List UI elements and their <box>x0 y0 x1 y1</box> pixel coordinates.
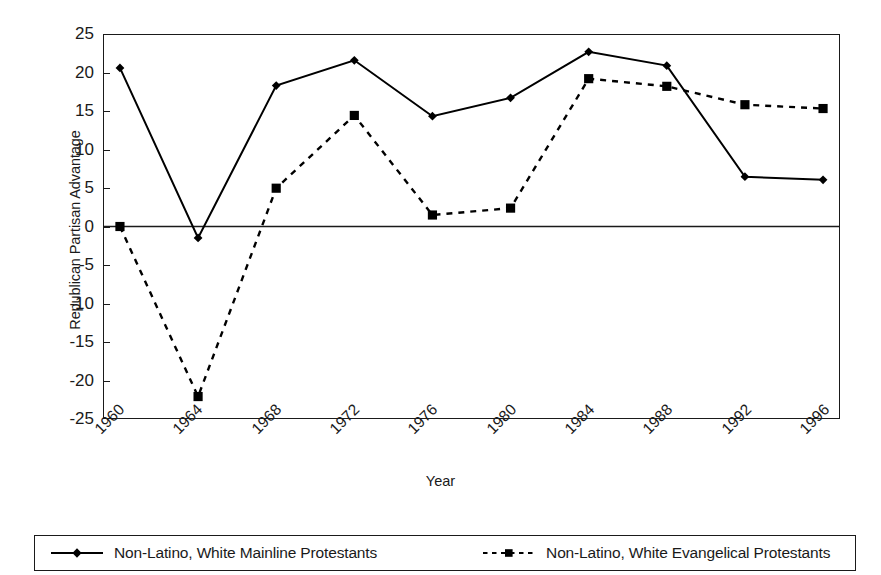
y-axis-tick-mark <box>103 73 110 74</box>
y-axis-tick-label: 10 <box>48 141 94 158</box>
y-axis-tick-label: 5 <box>48 179 94 196</box>
chart-figure: Republican Partisan Advantage 2520151050… <box>0 0 881 575</box>
diamond-marker-icon <box>819 175 828 184</box>
y-axis-tick-label: 20 <box>48 64 94 81</box>
y-axis-tick-mark <box>103 150 110 151</box>
y-axis-tick-label: 0 <box>48 218 94 235</box>
series-line <box>120 79 823 397</box>
dashed-line-icon <box>481 545 537 561</box>
square-marker-icon <box>428 210 437 219</box>
series-evangelical <box>115 74 827 401</box>
y-axis-tick-mark <box>103 265 110 266</box>
legend-entry-mainline: Non-Latino, White Mainline Protestants <box>49 544 377 562</box>
plot-svg <box>104 35 839 418</box>
solid-line-icon <box>49 545 105 561</box>
chart-legend: Non-Latino, White Mainline Protestants N… <box>34 535 856 571</box>
y-axis-tick-label: -15 <box>48 333 94 350</box>
square-marker-icon <box>662 82 671 91</box>
square-marker-icon <box>272 184 281 193</box>
x-axis-title: Year <box>0 473 881 489</box>
y-axis-tick-mark <box>103 188 110 189</box>
diamond-marker-icon <box>194 234 203 243</box>
y-axis-tick-label: -25 <box>48 410 94 427</box>
series-line <box>120 52 823 238</box>
square-marker-icon <box>740 100 749 109</box>
square-marker-icon <box>506 204 515 213</box>
y-axis-tick-mark <box>103 381 110 382</box>
square-marker-icon <box>818 104 827 113</box>
square-marker-icon <box>584 74 593 83</box>
square-marker-icon <box>350 111 359 120</box>
y-axis-tick-label: 15 <box>48 102 94 119</box>
plot-area <box>103 34 840 419</box>
y-axis-tick-label: -10 <box>48 295 94 312</box>
diamond-marker-icon <box>272 81 281 90</box>
legend-label-mainline: Non-Latino, White Mainline Protestants <box>114 544 377 562</box>
y-axis-tick-mark <box>103 111 110 112</box>
y-axis-tick-label: 25 <box>48 25 94 42</box>
diamond-marker-icon <box>116 64 125 73</box>
square-marker-icon <box>115 222 124 231</box>
y-axis-tick-mark <box>103 342 110 343</box>
y-axis-tick-mark <box>103 304 110 305</box>
diamond-marker-icon <box>584 47 593 56</box>
legend-label-evangelical: Non-Latino, White Evangelical Protestant… <box>546 544 830 562</box>
y-axis-tick-mark <box>103 227 110 228</box>
legend-entry-evangelical: Non-Latino, White Evangelical Protestant… <box>481 544 830 562</box>
series-mainline <box>116 47 828 242</box>
y-axis-tick-label: -20 <box>48 372 94 389</box>
diamond-marker-icon <box>506 93 515 102</box>
square-marker-icon <box>193 392 202 401</box>
y-axis-tick-label: -5 <box>48 256 94 273</box>
